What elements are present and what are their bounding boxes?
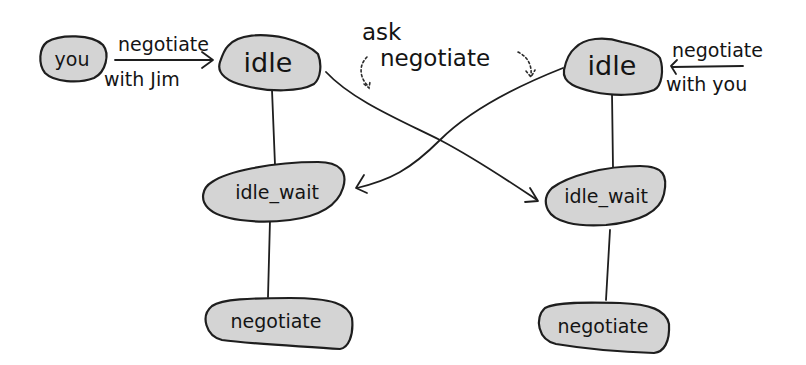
label-right-in-top: negotiate <box>672 39 763 61</box>
label-center-top: ask <box>362 19 402 45</box>
node-left-idle: idle <box>219 35 320 90</box>
node-left-idle-label: idle <box>244 47 293 78</box>
label-right-in-bottom: with you <box>666 73 747 95</box>
node-left-negotiate: negotiate <box>206 298 353 349</box>
label-left-in-top: negotiate <box>118 33 209 55</box>
node-right-idle-label: idle <box>588 50 637 81</box>
node-left-negotiate-label: negotiate <box>231 310 322 332</box>
edge-incoming-right-idle <box>672 66 743 67</box>
node-you: you <box>40 36 106 81</box>
node-you-label: you <box>55 48 90 70</box>
arrowhead-right-idle-to-left-idle-wait <box>356 175 367 193</box>
edge-right-idle-to-left-idle-wait <box>357 68 563 188</box>
dotted-arrow-right <box>518 52 531 76</box>
node-left-idle-wait: idle_wait <box>203 162 344 222</box>
dotted-arrow-left <box>361 57 368 86</box>
edge-right-idle-wait-to-negotiate <box>606 230 610 300</box>
edge-right-idle-to-idle-wait <box>612 93 613 168</box>
node-right-idle-wait: idle_wait <box>546 166 665 225</box>
label-center-bottom: negotiate <box>380 45 490 71</box>
edge-left-idle-to-idle-wait <box>272 90 275 165</box>
node-right-idle: idle <box>564 39 662 95</box>
edge-left-idle-to-right-idle-wait <box>326 72 537 200</box>
node-left-idle-wait-label: idle_wait <box>235 181 319 204</box>
node-right-negotiate-label: negotiate <box>558 315 649 337</box>
fsm-diagram: you idle idle idle_wait idle_wait negoti… <box>0 0 806 365</box>
node-right-idle-wait-label: idle_wait <box>564 185 648 208</box>
node-right-negotiate: negotiate <box>539 303 669 353</box>
edge-left-idle-wait-to-negotiate <box>268 220 270 297</box>
label-left-in-bottom: with Jim <box>104 68 180 90</box>
